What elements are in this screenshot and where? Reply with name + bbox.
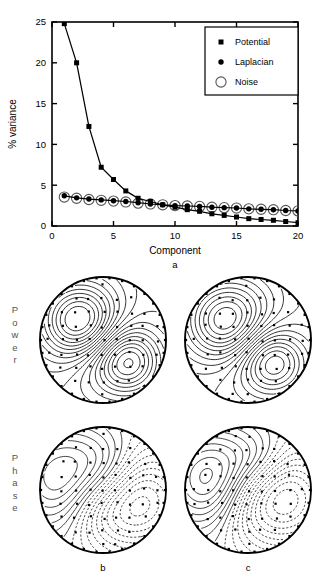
data-point-potential [74, 60, 79, 65]
electrode-dot-rim [133, 435, 135, 437]
y-tick-label: 20 [35, 57, 46, 68]
electrode-dot [205, 463, 207, 465]
x-tick-label: 20 [293, 230, 304, 241]
electrode-dot-rim [308, 352, 310, 354]
electrode-dot-rim [133, 543, 135, 545]
electrode-dot-rim [186, 476, 188, 478]
electrode-dot [128, 461, 130, 463]
electrode-dot-rim [159, 314, 161, 316]
electrode-dot [61, 311, 63, 313]
electrode-dot [128, 531, 130, 533]
electrode-dot [116, 380, 118, 382]
electrode-dot [261, 490, 263, 492]
electrode-dot [207, 353, 209, 355]
electrode-dot [114, 354, 116, 356]
legend-label-laplacian: Laplacian [235, 57, 274, 67]
electrode-dot [234, 449, 236, 451]
electrode-dot [234, 528, 236, 530]
electrode-dot [90, 324, 92, 326]
electrode-dot-rim [278, 435, 280, 437]
electrode-dot [89, 461, 91, 463]
electrode-dot [89, 338, 91, 340]
electrode-dot [219, 517, 221, 519]
electrode-dot-rim [288, 535, 290, 537]
electrode-dot [156, 489, 158, 491]
electrode-dot [232, 515, 234, 517]
electrode-dot-rim [308, 326, 310, 328]
y-axis-label: % variance [7, 99, 18, 149]
data-point-potential [296, 220, 301, 225]
electrode-dot-rim [186, 502, 188, 504]
electrode-dot-rim [240, 427, 242, 429]
electrode-dot [259, 461, 261, 463]
data-point-potential [99, 165, 104, 170]
data-point-potential [222, 213, 227, 218]
electrode-dot-rim [278, 543, 280, 545]
electrode-dot [101, 393, 103, 395]
y-tick-label: 0 [41, 220, 46, 231]
electrode-dot [220, 326, 222, 328]
electrode-dot [75, 489, 77, 491]
electrode-dot [128, 517, 130, 519]
data-point-laplacian [295, 208, 300, 213]
y-tick-label: 25 [35, 16, 46, 27]
electrode-dot-rim [266, 398, 268, 400]
x-tick-label: 0 [49, 230, 54, 241]
electrode-dot-rim [297, 375, 299, 377]
electrode-dot [115, 517, 117, 519]
electrode-dot-rim [205, 385, 207, 387]
electrode-dot-rim [108, 401, 110, 403]
electrode-dot-rim [253, 427, 255, 429]
headmap-phase-b [33, 420, 173, 560]
electrode-dot [262, 447, 264, 449]
y-tick-label: 10 [35, 139, 46, 150]
electrode-dot [144, 463, 146, 465]
x-tick-label: 15 [231, 230, 242, 241]
electrode-dot [245, 285, 247, 287]
data-point-potential [86, 124, 91, 129]
electrode-dot [260, 380, 262, 382]
electrode-dot [128, 351, 130, 353]
electrode-dot-rim [288, 293, 290, 295]
electrode-dot [89, 474, 91, 476]
electrode-dot [116, 326, 118, 328]
electrode-dot [261, 475, 263, 477]
electrode-dot [289, 338, 291, 340]
electrode-dot [207, 518, 209, 520]
data-point-laplacian [111, 198, 116, 203]
y-tick-label: 15 [35, 98, 46, 109]
legend-marker-laplacian [218, 59, 223, 64]
electrode-dot-rim [197, 302, 199, 304]
electrode-dot [131, 313, 133, 315]
row-label-power-text: Power [4, 304, 26, 367]
electrode-dot-rim [297, 452, 299, 454]
electrode-dot [261, 340, 263, 342]
electrode-dot [155, 476, 157, 478]
data-point-laplacian [135, 200, 140, 205]
electrode-dot [276, 368, 278, 370]
electrode-dot [248, 543, 250, 545]
electrode-dot [143, 487, 145, 489]
data-point-potential [234, 215, 239, 220]
electrode-dot-rim [41, 326, 43, 328]
data-point-laplacian [246, 206, 251, 211]
electrode-dot-rim [143, 443, 145, 445]
electrode-dot [103, 462, 105, 464]
electrode-dot [290, 503, 292, 505]
electrode-dot-rim [297, 525, 299, 527]
data-point-potential [197, 209, 202, 214]
electrode-dot [130, 325, 132, 327]
electrode-dot-rim [185, 339, 187, 341]
electrode-dot [75, 475, 77, 477]
electrode-dot [261, 313, 263, 315]
data-point-potential [283, 219, 288, 224]
electrode-dot [114, 489, 116, 491]
electrode-dot [246, 311, 248, 313]
electrode-dot [301, 324, 303, 326]
electrode-dot-rim [253, 401, 255, 403]
electrode-dot [275, 380, 277, 382]
electrode-dot [142, 354, 144, 356]
electrode-dot-rim [186, 352, 188, 354]
electrode-dot [114, 543, 116, 545]
variance-chart: 051015202505101520Component% variancePot… [0, 0, 322, 268]
